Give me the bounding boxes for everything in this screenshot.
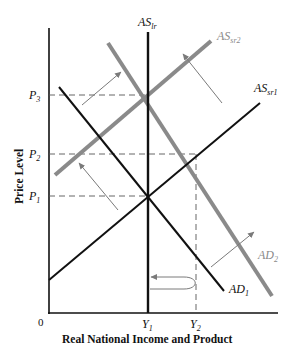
- as-ad-diagram: P3 P2 P1 0 Y1 Y2 ASlr ASsr1 ASsr2 AD1 AD…: [0, 0, 294, 348]
- ad2-curve: [108, 43, 272, 296]
- y-axis-title: Price Level: [13, 149, 25, 204]
- p1-label: P1: [28, 189, 40, 205]
- y2-label: Y2: [190, 317, 201, 333]
- p3-label: P3: [28, 88, 40, 104]
- p2-label: P2: [28, 147, 40, 163]
- ad1-curve: [59, 87, 224, 291]
- as-lr-label: ASlr: [137, 15, 158, 31]
- y1-label: Y1: [142, 317, 153, 333]
- ad-shift-arrow-upper: [82, 72, 121, 105]
- as-shift-arrow-upper: [183, 54, 222, 103]
- x-axis-title: Real National Income and Product: [62, 333, 233, 345]
- as-sr1-label: ASsr1: [253, 81, 278, 97]
- as-shift-arrow-lower: [79, 163, 118, 210]
- ad2-label: AD2: [257, 248, 278, 264]
- origin-label: 0: [38, 316, 44, 328]
- ad1-label: AD1: [228, 282, 249, 298]
- as-sr2-curve: [55, 41, 211, 175]
- output-return-arrow: [150, 277, 195, 289]
- as-sr2-label: ASsr2: [216, 29, 241, 45]
